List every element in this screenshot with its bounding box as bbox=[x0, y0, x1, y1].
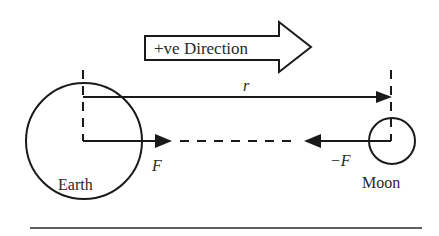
force-on-earth-arrow: F bbox=[83, 134, 172, 174]
distance-arrow: r bbox=[83, 77, 392, 103]
force-on-moon-label: −F bbox=[330, 152, 351, 169]
earth: Earth bbox=[26, 70, 142, 199]
earth-moon-force-diagram: +ve Direction Earth Moon r F −F bbox=[0, 0, 439, 236]
reaction-force-arrowhead-icon bbox=[304, 134, 321, 148]
moon-label: Moon bbox=[362, 174, 400, 191]
earth-label: Earth bbox=[58, 176, 93, 193]
force-on-earth-label: F bbox=[151, 157, 162, 174]
force-arrowhead-icon bbox=[155, 134, 172, 148]
distance-label: r bbox=[243, 77, 250, 94]
distance-arrowhead-icon bbox=[376, 91, 392, 103]
positive-direction-label: +ve Direction bbox=[154, 39, 249, 58]
force-on-moon-arrow: −F bbox=[304, 134, 391, 169]
positive-direction-arrow: +ve Direction bbox=[145, 22, 311, 72]
moon: Moon bbox=[362, 70, 415, 191]
